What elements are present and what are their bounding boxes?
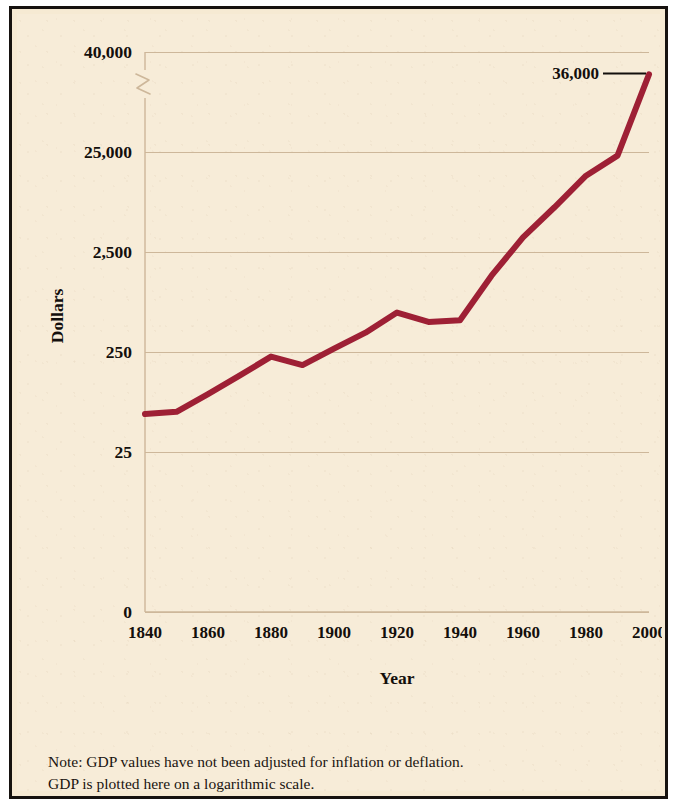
y-axis-spine (136, 52, 150, 612)
x-tick-label: 1960 (506, 623, 540, 642)
y-axis-tick-labels: 40,00025,0002,500250250 (84, 42, 132, 622)
y-tick-label: 2,500 (93, 242, 133, 262)
y-axis-title: Dollars (47, 289, 67, 344)
x-tick-label: 1940 (443, 623, 477, 642)
note-line-2: GDP is plotted here on a logarithmic sca… (48, 773, 648, 795)
x-tick-label: 1980 (569, 623, 603, 642)
annotation-value-label: 36,000 (552, 64, 599, 83)
x-tick-label: 1920 (380, 623, 414, 642)
figure-frame: 40,00025,0002,50025025018401860188019001… (9, 6, 668, 799)
x-axis-tick-labels: 184018601880190019201940196019802000 (128, 623, 662, 642)
figure-inner-frame: 40,00025,0002,50025025018401860188019001… (17, 14, 660, 791)
note-line-1: Note: GDP values have not been adjusted … (48, 751, 648, 773)
gridlines (145, 52, 649, 612)
x-tick-label: 1880 (254, 623, 288, 642)
y-tick-label: 0 (123, 602, 132, 622)
y-axis-break-icon (136, 74, 150, 94)
chart-plot-area: 40,00025,0002,50025025018401860188019001… (17, 14, 660, 791)
x-tick-label: 1840 (128, 623, 162, 642)
y-tick-label: 25 (115, 442, 133, 462)
x-axis-title: Year (380, 668, 415, 688)
gdp-line-chart: 40,00025,0002,50025025018401860188019001… (17, 14, 662, 794)
x-tick-label: 1900 (317, 623, 351, 642)
x-tick-label: 2000 (632, 623, 662, 642)
y-tick-label: 250 (106, 342, 133, 362)
x-tick-label: 1860 (191, 623, 225, 642)
y-tick-label: 40,000 (84, 42, 132, 62)
chart-note: Note: GDP values have not been adjusted … (48, 751, 648, 795)
y-tick-label: 25,000 (84, 142, 132, 162)
gdp-data-line (145, 74, 649, 414)
